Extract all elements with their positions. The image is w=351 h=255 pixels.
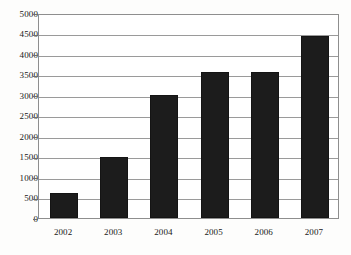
bar-series [39, 15, 338, 218]
bar [301, 36, 329, 218]
bar [100, 157, 128, 219]
x-axis-tick-label: 2004 [137, 228, 189, 237]
x-axis-tick-label: 2003 [87, 228, 139, 237]
y-axis-tick-mark [33, 219, 38, 220]
plot-area [38, 14, 339, 219]
bar [150, 95, 178, 218]
x-axis-tick-label: 2005 [188, 228, 240, 237]
bar [251, 72, 279, 218]
bar [50, 193, 78, 218]
x-axis-tick-label: 2007 [288, 228, 340, 237]
x-axis-tick-label: 2006 [238, 228, 290, 237]
x-axis-tick-label: 2002 [37, 228, 89, 237]
bar [201, 72, 229, 218]
bar-chart: 0500100015002000250030003500400045005000… [0, 0, 351, 255]
